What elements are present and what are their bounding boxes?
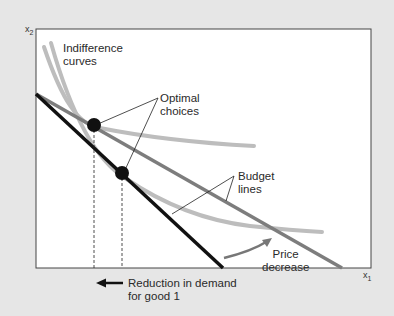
optimal-choices-label: Optimal choices bbox=[160, 92, 200, 117]
optimal-point-2 bbox=[115, 166, 129, 180]
price-decrease-label: Price decrease bbox=[262, 248, 309, 273]
reduction-in-demand-label: Reduction in demand for good 1 bbox=[128, 277, 237, 302]
optimal-point-1 bbox=[87, 118, 101, 132]
indifference-curves-label: Indifference curves bbox=[63, 42, 123, 67]
budget-lines-label: Budget lines bbox=[238, 170, 274, 195]
reduction-arrowhead bbox=[96, 279, 106, 288]
y-axis-label: x2 bbox=[25, 23, 33, 39]
diagram-canvas bbox=[0, 0, 394, 316]
x-axis-label: x1 bbox=[363, 269, 371, 285]
